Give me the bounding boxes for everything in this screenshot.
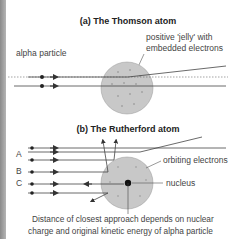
label-c: C <box>16 178 22 188</box>
jelly-label-1: positive 'jelly' with <box>146 32 213 42</box>
atom-diagram: (a) The Thomson atom positive 'jelly' wi… <box>0 0 239 239</box>
caption-line-1: Distance of closest approach depends on … <box>32 214 214 224</box>
rutherford-title: (b) The Rutherford atom <box>77 124 180 134</box>
caption-line-2: charge and original kinetic energy of al… <box>28 226 213 236</box>
thomson-title: (a) The Thomson atom <box>80 16 177 26</box>
alpha-particle-label: alpha particle <box>16 48 67 58</box>
label-b: B <box>16 166 22 176</box>
nucleus-label: nucleus <box>166 178 195 188</box>
orbiting-electrons-label: orbiting electrons <box>163 155 228 165</box>
thomson-atom <box>101 62 153 114</box>
jelly-label-2: embedded electrons <box>146 43 223 53</box>
label-a: A <box>16 149 22 159</box>
